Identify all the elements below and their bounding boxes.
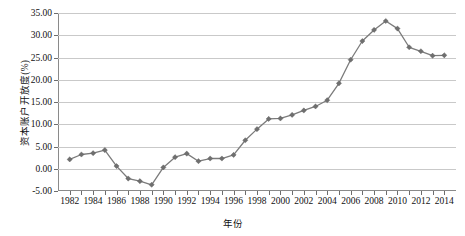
x-tick-mark (280, 191, 281, 195)
x-tick-mark (269, 191, 270, 195)
data-point (301, 108, 306, 113)
y-tick-label: 15.00 (2, 97, 52, 107)
y-tick-mark (54, 191, 58, 192)
y-tick-label: 5.00 (2, 142, 52, 152)
data-point (137, 179, 142, 184)
x-tick-mark (421, 191, 422, 195)
data-point (219, 156, 224, 161)
data-point (313, 104, 318, 109)
y-tick-label: 0.00 (2, 164, 52, 174)
data-point (442, 53, 447, 58)
x-tick-mark (163, 191, 164, 195)
x-tick-mark (198, 191, 199, 195)
x-tick-mark (70, 191, 71, 195)
x-tick-mark (117, 191, 118, 195)
x-tick-mark (316, 191, 317, 195)
x-tick-mark (152, 191, 153, 195)
x-tick-mark (386, 191, 387, 195)
data-point (67, 157, 72, 162)
x-tick-mark (444, 191, 445, 195)
x-tick-mark (397, 191, 398, 195)
x-tick-mark (292, 191, 293, 195)
series-line (70, 21, 445, 185)
y-tick-label: 10.00 (2, 119, 52, 129)
data-point (208, 156, 213, 161)
series-markers (67, 18, 447, 187)
x-tick-mark (234, 191, 235, 195)
x-tick-label: 2014 (424, 196, 464, 207)
x-tick-mark (339, 191, 340, 195)
x-tick-mark (187, 191, 188, 195)
data-point (430, 53, 435, 58)
y-tick-label: 20.00 (2, 75, 52, 85)
x-tick-mark (105, 191, 106, 195)
x-tick-mark (409, 191, 410, 195)
x-tick-mark (175, 191, 176, 195)
y-tick-label: 35.00 (2, 8, 52, 18)
y-tick-label: 25.00 (2, 53, 52, 63)
x-axis-title: 年份 (0, 216, 465, 230)
y-tick-label: -5.00 (2, 186, 52, 196)
x-tick-mark (362, 191, 363, 195)
x-tick-mark (93, 191, 94, 195)
x-tick-mark (81, 191, 82, 195)
x-tick-mark (210, 191, 211, 195)
x-tick-mark (222, 191, 223, 195)
data-series-capital-account-openness (58, 13, 456, 191)
x-tick-mark (351, 191, 352, 195)
x-tick-mark (304, 191, 305, 195)
x-tick-mark (433, 191, 434, 195)
x-tick-mark (374, 191, 375, 195)
x-tick-mark (128, 191, 129, 195)
data-point (418, 49, 423, 54)
y-tick-label: 30.00 (2, 30, 52, 40)
plot-area (58, 13, 456, 191)
data-point (91, 151, 96, 156)
data-point (278, 116, 283, 121)
x-tick-mark (327, 191, 328, 195)
capital-account-openness-chart: 资本账户开放度(%) 35.0030.0025.0020.0015.0010.0… (0, 0, 465, 236)
x-tick-mark (257, 191, 258, 195)
x-tick-mark (245, 191, 246, 195)
data-point (290, 112, 295, 117)
x-tick-mark (140, 191, 141, 195)
data-point (79, 152, 84, 157)
